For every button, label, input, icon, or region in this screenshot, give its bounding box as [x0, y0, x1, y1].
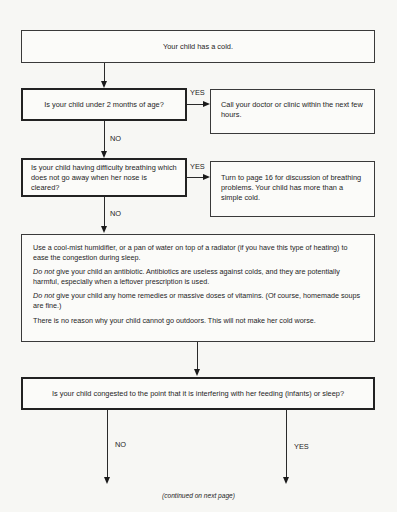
question-congestion-text: Is your child congested to the point tha…	[52, 389, 344, 399]
arrow-down-icon	[104, 477, 110, 484]
home-care-advice-box: Use a cool-mist humidifier, or a pan of …	[21, 234, 375, 342]
connector-line	[187, 104, 204, 105]
continued-note: (continued on next page)	[0, 492, 397, 499]
question-age-text: Is your child under 2 months of age?	[44, 100, 164, 110]
advice-emphasis: Do not	[33, 267, 54, 276]
connector-line	[104, 197, 105, 228]
no-label: NO	[115, 440, 126, 449]
breathing-problems-box: Turn to page 16 for discussion of breath…	[210, 161, 375, 217]
no-label: NO	[110, 209, 121, 218]
arrow-down-icon	[194, 369, 200, 376]
call-doctor-box: Call your doctor or clinic within the ne…	[210, 89, 375, 134]
connector-line	[197, 342, 198, 371]
advice-antibiotic: Do not give your child an antibiotic. An…	[33, 267, 363, 286]
arrow-right-icon	[203, 174, 210, 180]
call-doctor-text: Call your doctor or clinic within the ne…	[221, 100, 363, 119]
connector-line	[107, 410, 108, 477]
arrow-down-icon	[283, 477, 289, 484]
advice-antibiotic-text: give your child an antibiotic. Antibioti…	[33, 267, 340, 286]
connector-line	[286, 410, 287, 477]
start-box: Your child has a cold.	[21, 30, 375, 63]
connector-line	[104, 121, 105, 153]
arrow-down-icon	[101, 226, 107, 233]
yes-label: YES	[190, 88, 205, 97]
connector-line	[187, 177, 204, 178]
arrow-down-icon	[101, 151, 107, 158]
advice-remedies: Do not give your child any home remedies…	[33, 291, 363, 310]
breathing-problems-text: Turn to page 16 for discussion of breath…	[221, 173, 361, 202]
yes-label: YES	[294, 442, 309, 451]
arrow-right-icon	[203, 101, 210, 107]
advice-remedies-text: give your child any home remedies or mas…	[33, 291, 360, 310]
question-age-box: Is your child under 2 months of age?	[21, 88, 187, 121]
question-congestion-box: Is your child congested to the point tha…	[21, 377, 375, 410]
start-text: Your child has a cold.	[163, 42, 233, 52]
advice-outdoors: There is no reason why your child cannot…	[33, 316, 363, 326]
arrow-down-icon	[101, 81, 107, 88]
no-label: NO	[110, 134, 121, 143]
advice-emphasis: Do not	[33, 291, 54, 300]
connector-line	[104, 63, 105, 83]
advice-humidifier: Use a cool-mist humidifier, or a pan of …	[33, 243, 363, 262]
question-breathing-box: Is your child having difficulty breathin…	[21, 158, 187, 197]
yes-label: YES	[190, 162, 205, 171]
question-breathing-text: Is your child having difficulty breathin…	[31, 163, 177, 193]
